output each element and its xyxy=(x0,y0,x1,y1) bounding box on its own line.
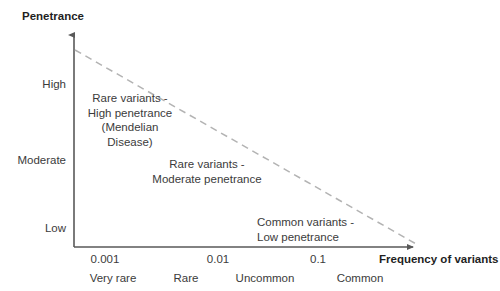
annotation-rare-high-line-3: (Mendelian xyxy=(68,120,192,135)
annotation-common-low-line-1: Common variants - xyxy=(257,215,387,230)
annotation-rare-moderate-line-2: Moderate penetrance xyxy=(137,172,277,187)
x-tick-label-001: 0.01 xyxy=(189,252,247,266)
x-category-label-common: Common xyxy=(326,271,394,285)
x-axis-title: Frequency of variants xyxy=(379,252,499,266)
annotation-common-low-line-2: Low penetrance xyxy=(257,230,387,245)
annotation-rare-moderate-line-1: Rare variants - xyxy=(137,157,277,172)
y-tick-label-low: Low xyxy=(4,221,66,235)
x-tick-label-01: 0.1 xyxy=(289,252,347,266)
x-tick-label-0001: 0.001 xyxy=(76,252,134,266)
x-category-label-very-rare: Very rare xyxy=(78,271,148,285)
annotation-rare-high-line-4: Disease) xyxy=(68,135,192,150)
annotation-rare-high-line-2: High penetrance xyxy=(68,106,192,121)
annotation-rare-high-line-1: Rare variants - xyxy=(68,91,192,106)
x-category-label-rare: Rare xyxy=(155,271,217,285)
annotation-rare-high-penetrance: Rare variants - High penetrance (Mendeli… xyxy=(68,91,192,149)
annotation-rare-moderate-penetrance: Rare variants - Moderate penetrance xyxy=(137,157,277,186)
y-axis-title: Penetrance xyxy=(22,9,84,23)
annotation-common-low-penetrance: Common variants - Low penetrance xyxy=(257,215,387,244)
x-category-label-uncommon: Uncommon xyxy=(228,271,302,285)
y-tick-label-high: High xyxy=(4,77,66,91)
y-tick-label-moderate: Moderate xyxy=(4,153,66,167)
penetrance-frequency-chart: Penetrance Frequency of variants High Mo… xyxy=(0,0,500,291)
